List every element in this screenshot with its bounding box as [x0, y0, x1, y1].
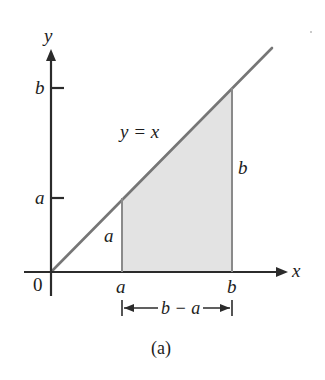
y-tick-label-a: a	[35, 188, 45, 207]
x-tick-label-a: a	[116, 277, 126, 296]
x-axis-label: x	[292, 261, 300, 280]
dimension-arrowhead-right	[220, 304, 230, 312]
figure-container: y x 0 b a a b y = x a b b − a (a)	[0, 0, 325, 380]
y-axis-arrowhead	[46, 49, 56, 61]
x-axis-arrowhead	[276, 267, 288, 277]
dimension-arrowhead-left	[124, 304, 134, 312]
right-height-label: b	[238, 158, 248, 177]
figure-caption: (a)	[151, 338, 171, 359]
y-tick-label-b: b	[35, 78, 45, 97]
scan-speck	[310, 31, 312, 33]
y-axis-label: y	[44, 26, 52, 45]
x-tick-label-b: b	[227, 277, 237, 296]
dimension-label: b − a	[158, 298, 203, 319]
plot-canvas	[0, 0, 325, 380]
origin-label: 0	[33, 275, 43, 294]
shaded-area-under-curve	[122, 88, 232, 272]
left-height-label: a	[104, 226, 114, 245]
curve-label: y = x	[120, 122, 159, 141]
